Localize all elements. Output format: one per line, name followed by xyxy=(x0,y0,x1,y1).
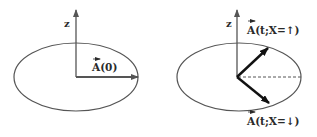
vector-a-down-label: A(t;X=↓) xyxy=(246,115,300,128)
right-panel: z A(t;X=↑) A(t;X=↓) xyxy=(177,10,301,128)
vector-a-up-label: A(t;X=↑) xyxy=(246,24,300,37)
z-axis-label-right: z xyxy=(226,18,232,29)
vector-a0-label: A(0) xyxy=(91,61,117,73)
z-axis-label-left: z xyxy=(64,18,70,29)
vector-a-up xyxy=(237,48,268,77)
diagram-canvas: z A(0) z A(t;X=↑) A(t;X=↓) xyxy=(0,0,317,137)
left-panel: z A(0) xyxy=(14,10,138,111)
vector-a-down xyxy=(237,77,269,103)
